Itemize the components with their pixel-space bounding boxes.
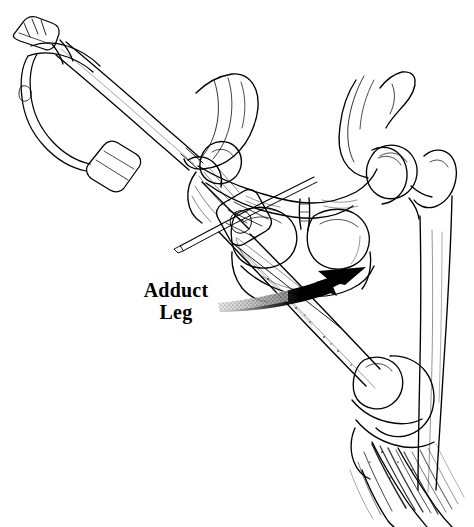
illustration-canvas [0, 0, 474, 527]
figure-background [0, 0, 474, 527]
surgical-illustration-figure: Adduct Leg [0, 0, 474, 527]
